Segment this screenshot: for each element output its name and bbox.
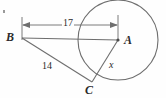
length-label-x: x [109, 60, 113, 70]
dimension-arrowhead-right [110, 22, 118, 28]
segment-a-to-c-radius [92, 40, 118, 82]
point-label-c: C [85, 84, 93, 96]
point-label-b: B [6, 31, 14, 43]
segment-b-to-c [22, 38, 92, 82]
segment-b-to-a [22, 38, 118, 40]
dimension-arrowhead-left [22, 22, 30, 28]
geometry-canvas [0, 0, 166, 98]
point-label-a: A [124, 34, 132, 46]
center-point-dot [116, 38, 119, 41]
geometry-figure: B A C 17 14 x [0, 0, 166, 98]
length-label-14: 14 [41, 61, 53, 71]
length-label-17: 17 [62, 18, 74, 28]
